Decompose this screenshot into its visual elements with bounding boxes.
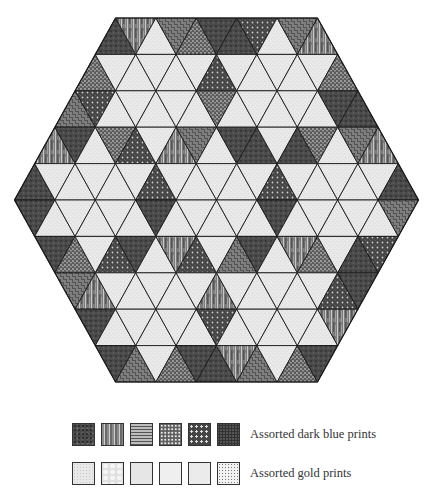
gold-print-swatch xyxy=(72,462,95,485)
legend-row-dark: Assorted dark blue prints xyxy=(72,422,376,447)
dark-dots-print-swatch xyxy=(188,423,211,446)
gold-plain-print-swatch xyxy=(130,462,153,485)
gold-mottled-print-swatch xyxy=(101,462,124,485)
hexagon-quilt-diagram xyxy=(0,0,440,400)
dark-streaky-print-swatch xyxy=(101,423,124,446)
dark-weave-print-swatch xyxy=(130,423,153,446)
legend-label-dark: Assorted dark blue prints xyxy=(250,427,376,442)
gold-soft-print-swatch xyxy=(188,462,211,485)
gold-pale-print-swatch xyxy=(159,462,182,485)
quilt-triangles xyxy=(15,18,419,382)
legend-label-light: Assorted gold prints xyxy=(250,466,351,481)
dark-mottled-print-swatch xyxy=(217,423,240,446)
gold-dotted-print-swatch xyxy=(217,462,240,485)
dark-print-swatch xyxy=(72,423,95,446)
dark-speckle-print-swatch xyxy=(159,423,182,446)
legend-row-light: Assorted gold prints xyxy=(72,461,351,486)
